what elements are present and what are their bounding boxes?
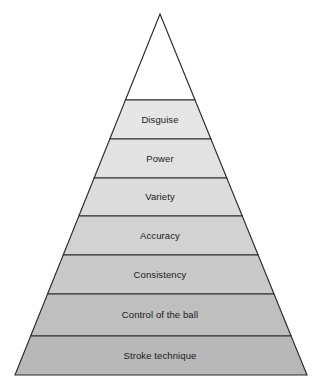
pyramid-apex-triangle [125, 14, 195, 100]
pyramid-tiers: DisguisePowerVarietyAccuracyConsistencyC… [15, 100, 307, 375]
pyramid-tier-label-4: Accuracy [140, 230, 180, 241]
pyramid-tier-label-5: Consistency [134, 269, 187, 280]
pyramid-tier-label-6: Control of the ball [122, 309, 198, 320]
pyramid-tier-label-1: Disguise [141, 114, 178, 125]
pyramid-tier-label-2: Power [146, 153, 173, 164]
pyramid-canvas: DisguisePowerVarietyAccuracyConsistencyC… [0, 0, 321, 387]
pyramid-tier-label-7: Stroke technique [124, 350, 197, 361]
pyramid-tier-label-3: Variety [145, 191, 175, 202]
pyramid-diagram: DisguisePowerVarietyAccuracyConsistencyC… [0, 0, 321, 387]
pyramid-apex [125, 14, 195, 100]
